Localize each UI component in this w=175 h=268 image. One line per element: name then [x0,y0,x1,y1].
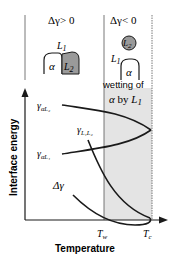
wetting-label-line1: wetting of [102,79,144,90]
x-axis-label: Temperature [55,243,115,254]
left-alpha-label: α [49,60,55,72]
right-alpha-label: α [126,66,132,78]
y-axis-arrow-icon [22,88,29,97]
wetting-label-line2: α by L1 [109,93,142,107]
label-gamma-aL1: γαL₁ [37,148,50,160]
tick-tw: Tw [97,228,108,241]
label-gamma-L1L2: γL₁L₂ [77,124,93,136]
wetting-region [104,88,152,220]
wetting-transition-diagram: Δγ> 0 L1 α L2 Δγ< 0 L2 L1 α wetting of α… [0,0,175,268]
right-condition: Δγ< 0 [110,14,137,26]
x-axis-arrow-icon [159,217,168,224]
label-delta-gamma: Δγ [52,179,64,191]
left-l1-label: L1 [56,40,67,53]
label-gamma-aL2: γαL₂ [37,100,51,112]
right-l1-label: L1 [110,53,121,66]
left-condition: Δγ> 0 [48,14,75,26]
tick-tc: Tc [143,228,153,241]
y-axis-label: Interface energy [8,118,19,196]
